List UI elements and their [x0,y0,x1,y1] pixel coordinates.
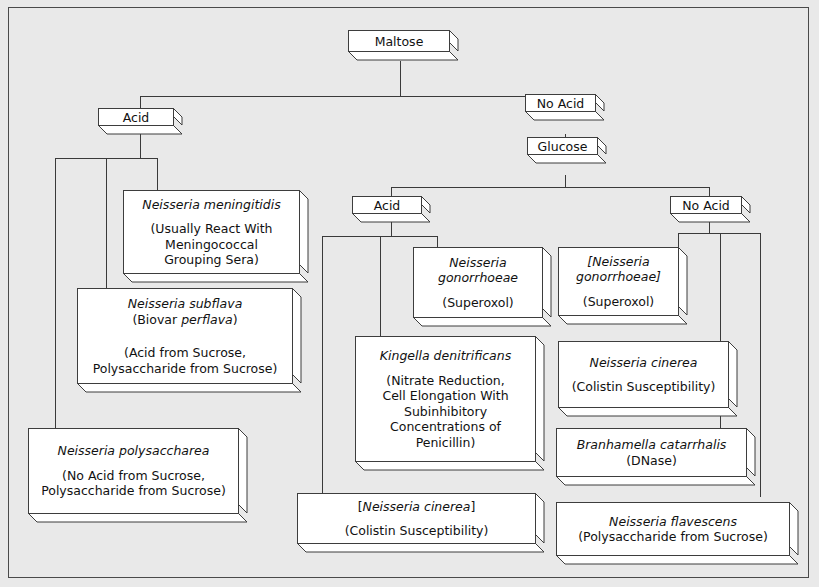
node-glucose-no-acid-label: No Acid [682,198,730,213]
node-n-meningitidis[interactable]: Neisseria meningitidis (Usually React Wi… [123,190,309,283]
box-bottom-face [413,317,552,327]
bracket-close: ] [470,499,475,514]
node-k-denitrificans[interactable]: Kingella denitrificans (Nitrate Reductio… [355,336,545,471]
connector-no-acid-drop-3 [760,233,761,497]
box-side-face [741,196,751,214]
node-maltose-no-acid-label: No Acid [537,96,585,111]
box-bottom-face [355,461,545,471]
box-bottom-face [670,213,751,223]
connector-glucose-bus [391,187,709,188]
biovar-italic: perflava [181,312,233,327]
node-maltose-acid[interactable]: Acid [98,108,183,135]
connector-glucose-stem [565,175,566,187]
note-line: Meningococcal [165,237,258,253]
box-side-face [542,247,552,318]
connector-glucose-no-acid-stem [709,222,710,233]
node-glucose-label: Glucose [538,139,588,154]
species-name: Neisseria cinerea [363,499,471,514]
box-side-face [597,137,607,155]
species-name: Neisseria flavescens [609,514,737,530]
box-side-face [789,502,799,556]
note-line: (Acid from Sucrose, [124,345,246,361]
connector-glucose-no-acid-bus [678,233,760,234]
node-glucose[interactable]: Glucose [527,137,607,164]
species-name: Neisseria meningitidis [142,197,280,213]
box-side-face [449,30,459,52]
species-name: Kingella denitrificans [380,348,511,364]
biovar-prefix: (Biovar [132,312,181,327]
box-bottom-face [98,125,183,135]
species-biovar-line: (Biovar perflava) [132,312,237,328]
node-maltose-acid-label: Acid [123,110,150,125]
note-line: (Usually React With [150,221,272,237]
box-bottom-face [556,476,756,486]
box-side-face [595,94,605,112]
node-glucose-no-acid[interactable]: No Acid [670,196,751,223]
box-bottom-face [556,555,799,565]
box-bottom-face [527,154,607,164]
connector-acid-stem [140,134,141,158]
connector-no-acid-drop-1 [678,233,679,248]
species-name: Branhamella catarrhalis [577,437,727,453]
note-line: Subinhibitory [404,404,487,420]
note-line: (Polysaccharide from Sucrose) [578,529,768,545]
node-b-catarrhalis[interactable]: Branhamella catarrhalis (DNase) [556,428,756,486]
note-line: (Superoxol) [583,294,655,310]
box-side-face [292,288,302,384]
species-name-line1: Neisseria [449,255,507,271]
note-line: Penicillin) [416,435,476,451]
node-n-cinerea-right[interactable]: Neisseria cinerea (Colistin Susceptibili… [558,341,738,417]
connector-glucose-acid-drop-mid [380,236,381,337]
node-maltose[interactable]: Maltose [348,30,459,61]
connector-no-acid-drop-2 [720,233,721,353]
box-side-face [421,196,431,214]
node-n-subflava[interactable]: Neisseria subflava (Biovar perflava) (Ac… [77,288,302,393]
node-n-polysaccharea[interactable]: Neisseria polysaccharea (No Acid from Su… [28,428,248,523]
node-n-cinerea-bracketed[interactable]: [Neisseria cinerea] (Colistin Susceptibi… [297,493,545,553]
note-line: Polysaccharide from Sucrose) [93,361,278,377]
node-glucose-acid-label: Acid [374,198,401,213]
box-bottom-face [77,383,302,393]
species-name: Neisseria polysaccharea [58,443,210,459]
box-side-face [678,247,688,316]
note-line: Polysaccharide from Sucrose) [41,483,226,499]
node-n-gonorrhoeae[interactable]: Neisseria gonorrhoeae (Superoxol) [413,247,552,327]
box-side-face [728,341,738,408]
box-bottom-face [123,273,309,283]
box-side-face [299,190,309,274]
node-maltose-label: Maltose [375,34,424,49]
diagram-canvas: Maltose Acid No Acid Glucose Acid No Aci… [0,0,819,587]
species-name-bracketed: [Neisseria cinerea] [358,499,476,515]
connector-maltose-bus [140,96,565,97]
box-side-face [173,108,183,126]
species-name-line2: gonorrhoeae [438,270,518,286]
box-bottom-face [352,213,431,223]
connector-acid-drop-mid [106,158,107,289]
box-bottom-face [348,51,459,61]
note-line: Concentrations of [390,419,501,435]
node-n-flavescens[interactable]: Neisseria flavescens (Polysaccharide fro… [556,502,799,565]
species-name-line2: gonorrhoeae] [576,269,661,285]
species-name-line1: [Neisseria [587,254,649,270]
diagram-frame: Maltose Acid No Acid Glucose Acid No Aci… [8,7,809,578]
species-name: Neisseria subflava [128,296,243,312]
node-maltose-no-acid[interactable]: No Acid [525,94,605,121]
connector-acid-drop-right [157,158,158,191]
connector-glucose-acid-drop-left [322,236,323,494]
connector-glucose-acid-stem [391,222,392,236]
box-side-face [746,428,756,477]
biovar-suffix: ) [233,312,238,327]
note-line: (Superoxol) [442,295,514,311]
note-line: (DNase) [626,453,677,469]
box-side-face [535,493,545,544]
connector-maltose-stem [400,61,401,96]
note-line: (No Acid from Sucrose, [62,468,205,484]
note-line: (Nitrate Reduction, [386,373,504,389]
node-glucose-acid[interactable]: Acid [352,196,431,223]
box-bottom-face [558,315,688,325]
node-n-gonorrhoeae-bracketed[interactable]: [Neisseria gonorrhoeae] (Superoxol) [558,247,688,325]
note-line: Cell Elongation With [382,388,508,404]
box-side-face [238,428,248,514]
note-line: (Colistin Susceptibility) [345,523,489,539]
box-side-face [535,336,545,462]
